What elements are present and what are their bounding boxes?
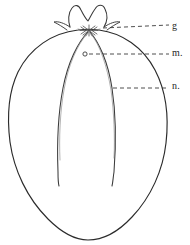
calyx-crown xyxy=(69,5,107,27)
label-m: m. xyxy=(172,48,183,58)
fruit-longitudinal-section-drawing xyxy=(0,0,190,245)
label-n: n. xyxy=(172,81,180,91)
figure-container: g m. n. xyxy=(0,0,190,245)
label-g: g xyxy=(172,21,177,31)
fruit-outline xyxy=(9,29,168,240)
calyx-starburst xyxy=(80,25,98,36)
point-marker-o xyxy=(83,52,87,56)
calyx-left-horn xyxy=(54,22,70,30)
